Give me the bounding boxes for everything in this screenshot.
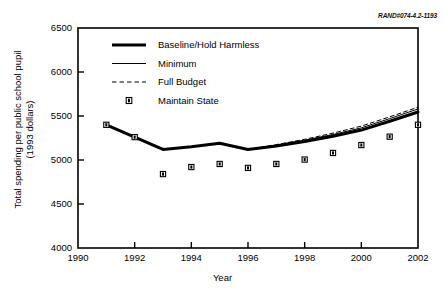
x-tick-label: 1990 (58, 252, 98, 263)
x-tick-label: 1992 (115, 252, 155, 263)
data-point-maintain-state (302, 157, 307, 162)
data-point-maintain-state (160, 171, 165, 176)
legend-item-label: Minimum (158, 58, 197, 69)
y-tick-label: 4500 (32, 198, 72, 209)
data-point-maintain-state (274, 161, 279, 166)
data-point-maintain-state (387, 134, 392, 139)
x-tick-label: 1998 (285, 252, 325, 263)
legend-symbol-square-marker (126, 98, 132, 104)
data-series-group (104, 107, 421, 176)
series-line-0 (106, 112, 418, 149)
y-tick-label: 5500 (32, 110, 72, 121)
data-point-maintain-state (245, 165, 250, 170)
y-tick-label: 6500 (32, 22, 72, 33)
data-point-maintain-state (217, 161, 222, 166)
data-point-maintain-state (330, 150, 335, 155)
y-tick-label: 5000 (32, 154, 72, 165)
data-point-maintain-state (104, 122, 109, 127)
x-tick-label: 1994 (171, 252, 211, 263)
x-axis-ticks (135, 242, 362, 248)
legend-item-label: Maintain State (158, 95, 219, 106)
chart-figure: RAND#074-4.2-1193 Total spending per pub… (0, 0, 445, 294)
data-point-maintain-state (359, 142, 364, 147)
data-point-maintain-state (415, 122, 420, 127)
data-point-maintain-state (132, 135, 137, 140)
x-tick-label: 2002 (398, 252, 438, 263)
y-tick-label: 6000 (32, 66, 72, 77)
x-tick-label: 2000 (341, 252, 381, 263)
legend-item-label: Baseline/Hold Harmless (158, 39, 259, 50)
y-axis-ticks (78, 72, 84, 204)
legend-item-label: Full Budget (158, 76, 206, 87)
series-line-1 (106, 109, 418, 149)
axis-frame (78, 28, 418, 248)
x-tick-label: 1996 (228, 252, 268, 263)
legend-symbols (112, 45, 146, 104)
data-point-maintain-state (189, 164, 194, 169)
